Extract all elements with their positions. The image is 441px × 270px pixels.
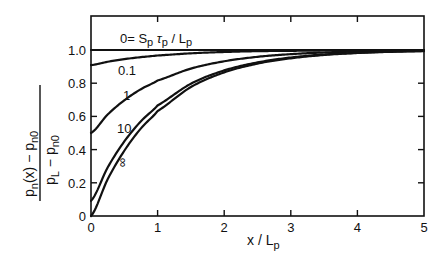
y-tick-label: 0.6 [68,109,86,124]
axis-ticks [91,16,424,216]
curve-label-0.1: 0.1 [118,63,136,78]
curve-label-1: 1 [123,88,130,103]
chart: 01234500.20.40.60.81.0 0.1 1 10 ∞ 0= Sp … [0,0,441,270]
svg-text:pL − pn0: pL − pn0 [42,135,61,185]
x-tick-label: 4 [354,220,361,235]
y-axis-title: pn(x) − pn0 pL − pn0 [21,85,61,201]
curve-∞ [91,51,424,216]
x-axis-title: x / Lp [247,232,280,251]
y-tick-label: 1.0 [68,43,86,58]
x-tick-label: 5 [420,220,427,235]
curve-label-10: 10 [117,121,131,136]
svg-text:0= Sp τp / Lp: 0= Sp τp / Lp [120,31,192,48]
svg-text:pn(x) − pn0: pn(x) − pn0 [21,131,40,197]
parameter-label: 0= Sp τp / Lp [120,31,192,48]
y-tick-label: 0.4 [68,143,86,158]
curve-label-infinity: ∞ [116,158,131,167]
y-tick-label: 0 [79,209,86,224]
y-tick-label: 0.8 [68,76,86,91]
x-tick-label: 0 [87,220,94,235]
svg-text:x / Lp: x / Lp [247,232,280,251]
y-tick-label: 0.2 [68,176,86,191]
x-tick-label: 1 [154,220,161,235]
x-tick-label: 2 [221,220,228,235]
plot-frame [91,16,424,216]
x-tick-label: 3 [287,220,294,235]
curve-10 [91,51,424,201]
curves [91,50,424,216]
